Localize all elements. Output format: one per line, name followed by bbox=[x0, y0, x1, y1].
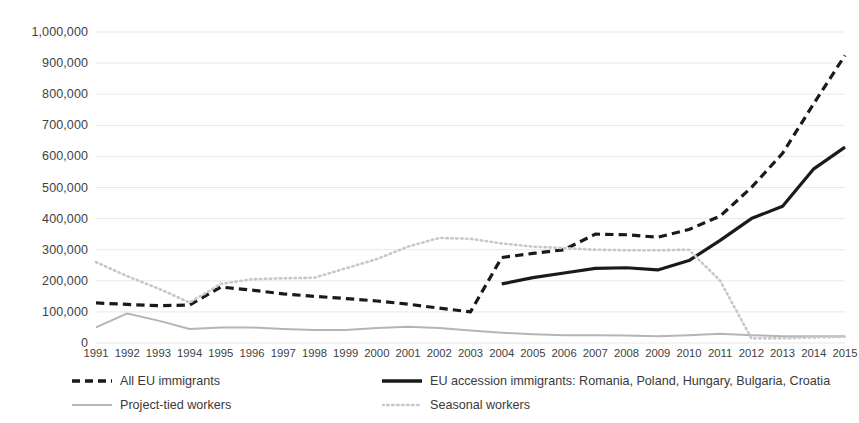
series-line-2 bbox=[96, 313, 845, 336]
x-tick-label: 2015 bbox=[832, 347, 857, 360]
gridlines bbox=[96, 32, 845, 343]
solid-gray-line-icon bbox=[72, 399, 112, 411]
legend-label: Project-tied workers bbox=[120, 398, 231, 412]
x-tick-label: 2011 bbox=[708, 347, 732, 360]
x-tick-label: 2012 bbox=[739, 347, 764, 360]
legend-label: All EU immigrants bbox=[120, 374, 220, 388]
x-axis: 1991199219931994199519961997199819992000… bbox=[96, 347, 845, 365]
x-tick-label: 2010 bbox=[676, 347, 701, 360]
x-tick-label: 1993 bbox=[146, 347, 171, 360]
x-tick-label: 2007 bbox=[583, 347, 608, 360]
x-tick-label: 2008 bbox=[614, 347, 639, 360]
y-tick-label: 800,000 bbox=[0, 88, 88, 101]
x-tick-label: 2005 bbox=[520, 347, 545, 360]
y-tick-label: 300,000 bbox=[0, 244, 88, 257]
legend-label: EU accession immigrants: Romania, Poland… bbox=[430, 374, 830, 388]
legend-label: Seasonal workers bbox=[430, 398, 530, 412]
x-tick-label: 2000 bbox=[364, 347, 389, 360]
x-tick-label: 2014 bbox=[801, 347, 826, 360]
y-tick-label: 0 bbox=[0, 337, 88, 350]
x-tick-label: 1999 bbox=[333, 347, 358, 360]
legend-item-seasonal-workers[interactable]: Seasonal workers bbox=[382, 396, 530, 414]
y-tick-label: 100,000 bbox=[0, 306, 88, 319]
x-tick-label: 1997 bbox=[271, 347, 296, 360]
x-tick-label: 1991 bbox=[83, 347, 108, 360]
y-tick-label: 1,000,000 bbox=[0, 26, 88, 39]
dashed-black-line-icon bbox=[72, 375, 112, 387]
y-tick-label: 600,000 bbox=[0, 150, 88, 163]
x-tick-label: 2009 bbox=[645, 347, 670, 360]
solid-black-line-icon bbox=[382, 375, 422, 387]
y-tick-label: 900,000 bbox=[0, 57, 88, 70]
x-tick-label: 1995 bbox=[208, 347, 233, 360]
x-tick-label: 2003 bbox=[458, 347, 483, 360]
x-tick-label: 1998 bbox=[302, 347, 327, 360]
y-tick-label: 700,000 bbox=[0, 119, 88, 132]
y-axis: 0100,000200,000300,000400,000500,000600,… bbox=[0, 0, 88, 423]
chart-legend: All EU immigrants EU accession immigrant… bbox=[30, 372, 840, 418]
x-tick-label: 2004 bbox=[489, 347, 514, 360]
y-tick-label: 500,000 bbox=[0, 182, 88, 195]
legend-item-eu-accession-immigrants[interactable]: EU accession immigrants: Romania, Poland… bbox=[382, 372, 830, 390]
plot-svg bbox=[96, 32, 845, 343]
x-tick-label: 2013 bbox=[770, 347, 795, 360]
dotted-gray-line-icon bbox=[382, 399, 422, 411]
legend-item-project-tied-workers[interactable]: Project-tied workers bbox=[72, 396, 231, 414]
y-tick-label: 400,000 bbox=[0, 213, 88, 226]
line-chart: 0100,000200,000300,000400,000500,000600,… bbox=[0, 0, 859, 423]
x-tick-label: 2001 bbox=[396, 347, 421, 360]
x-tick-label: 1992 bbox=[115, 347, 140, 360]
y-tick-label: 200,000 bbox=[0, 275, 88, 288]
x-tick-label: 1996 bbox=[239, 347, 264, 360]
series-line-3 bbox=[96, 238, 845, 338]
series-lines bbox=[96, 55, 845, 338]
legend-item-all-eu-immigrants[interactable]: All EU immigrants bbox=[72, 372, 220, 390]
x-tick-label: 2006 bbox=[552, 347, 577, 360]
x-tick-label: 2002 bbox=[427, 347, 452, 360]
series-line-1 bbox=[502, 147, 845, 284]
plot-area bbox=[96, 32, 845, 343]
x-tick-label: 1994 bbox=[177, 347, 202, 360]
